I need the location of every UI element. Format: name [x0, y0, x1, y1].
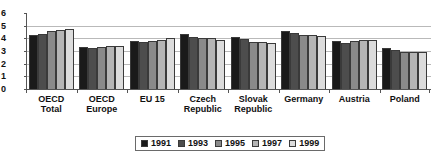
- bar: [29, 35, 38, 89]
- x-axis-category-label: OECD Europe: [77, 94, 128, 114]
- x-tick-mark: [77, 89, 78, 93]
- bar: [38, 34, 47, 89]
- x-tick-cell: [380, 89, 431, 93]
- legend-swatch-icon: [178, 140, 185, 147]
- bar: [350, 41, 359, 89]
- bar: [258, 42, 267, 89]
- bar: [166, 38, 175, 89]
- x-tick-cell: [77, 89, 128, 93]
- legend-item[interactable]: 1997: [252, 139, 282, 148]
- x-tick-cell: [178, 89, 229, 93]
- bar: [207, 38, 216, 89]
- bar-group: [77, 13, 128, 89]
- bar-group: [26, 13, 77, 89]
- legend-item[interactable]: 1993: [178, 139, 208, 148]
- x-tick-mark: [279, 89, 280, 93]
- x-tick-mark: [127, 89, 128, 93]
- bar: [231, 37, 240, 89]
- x-tick-cell: [279, 89, 330, 93]
- bar: [409, 52, 418, 89]
- bar-group: [127, 13, 178, 89]
- bar: [65, 29, 74, 89]
- bar: [290, 33, 299, 89]
- legend-item[interactable]: 1999: [289, 139, 319, 148]
- x-tick-cell: [228, 89, 279, 93]
- bar: [97, 47, 106, 89]
- legend-item[interactable]: 1995: [215, 139, 245, 148]
- x-tick-mark: [228, 89, 229, 93]
- x-tick-mark: [26, 89, 27, 93]
- bar: [418, 52, 427, 89]
- bar: [368, 40, 377, 89]
- x-axis-category-label: Germany: [279, 94, 330, 114]
- legend-swatch-icon: [215, 140, 222, 147]
- x-axis-ticks: [26, 89, 430, 93]
- x-tick-cell: [329, 89, 380, 93]
- legend-swatch-icon: [252, 140, 259, 147]
- bar: [115, 46, 124, 89]
- x-tick-cell: [26, 89, 77, 93]
- bar: [332, 41, 341, 89]
- bar: [56, 30, 65, 89]
- chart-legend: 19911993199519971999: [135, 136, 325, 151]
- bar: [359, 40, 368, 89]
- x-axis-labels: OECD TotalOECD EuropeEU 15Czech Republic…: [26, 94, 430, 114]
- bar: [148, 41, 157, 89]
- x-tick-mark: [429, 89, 430, 93]
- bar: [189, 37, 198, 89]
- legend-item[interactable]: 1991: [141, 139, 171, 148]
- bar-group: [178, 13, 229, 89]
- x-axis-category-label: Poland: [380, 94, 431, 114]
- x-tick-mark: [178, 89, 179, 93]
- x-axis-category-label: Czech Republic: [178, 94, 229, 114]
- legend-label: 1999: [299, 139, 319, 148]
- x-tick-mark: [380, 89, 381, 93]
- bar: [382, 48, 391, 89]
- legend-swatch-icon: [289, 140, 296, 147]
- legend-swatch-icon: [141, 140, 148, 147]
- x-axis-category-label: Slovak Republic: [228, 94, 279, 114]
- bar-group: [279, 13, 330, 89]
- legend-label: 1993: [188, 139, 208, 148]
- x-tick-mark: [329, 89, 330, 93]
- bar: [308, 35, 317, 89]
- bar: [88, 48, 97, 89]
- bar: [157, 40, 166, 89]
- bar: [341, 43, 350, 89]
- bar: [391, 50, 400, 89]
- x-tick-cell: [127, 89, 178, 93]
- bar: [299, 35, 308, 89]
- bar: [198, 38, 207, 89]
- bar: [249, 42, 258, 90]
- bar: [47, 31, 56, 89]
- bar: [180, 34, 189, 89]
- bar: [267, 43, 276, 89]
- bar: [139, 42, 148, 90]
- bar: [281, 31, 290, 89]
- bar: [216, 40, 225, 89]
- bar-group: [329, 13, 380, 89]
- bar-group: [228, 13, 279, 89]
- legend-label: 1997: [262, 139, 282, 148]
- bar: [400, 52, 409, 89]
- bar: [106, 46, 115, 89]
- legend-label: 1991: [151, 139, 171, 148]
- bar: [79, 47, 88, 89]
- bar: [317, 36, 326, 89]
- x-axis-category-label: EU 15: [127, 94, 178, 114]
- bar: [240, 39, 249, 89]
- x-axis-category-label: OECD Total: [26, 94, 77, 114]
- bar-group: [380, 13, 431, 89]
- bar: [130, 41, 139, 89]
- bar-groups: [26, 13, 430, 89]
- legend-label: 1995: [225, 139, 245, 148]
- x-axis-category-label: Austria: [329, 94, 380, 114]
- bar-chart: 6543210 OECD TotalOECD EuropeEU 15Czech …: [0, 0, 437, 157]
